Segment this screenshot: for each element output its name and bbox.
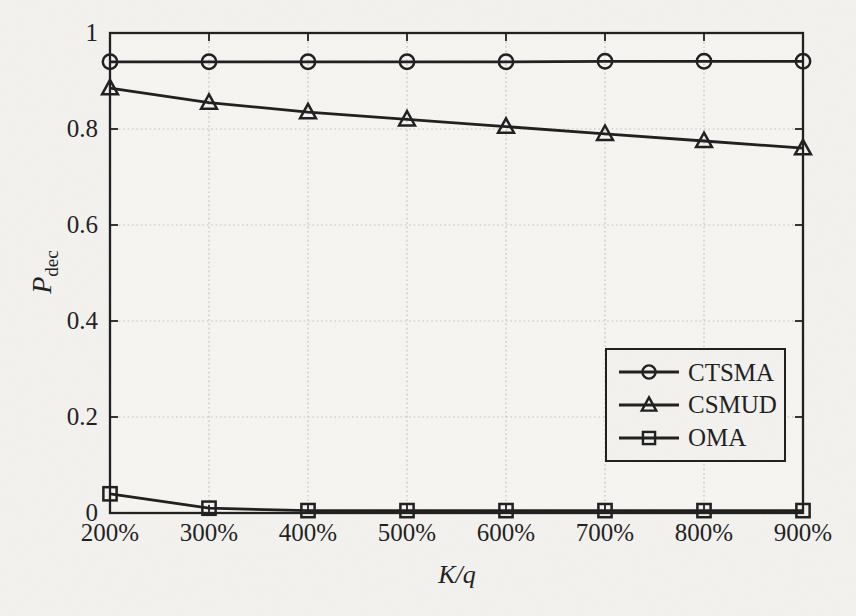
legend-marker-triangle-icon [619, 395, 679, 415]
legend-label-ctsma: CTSMA [688, 360, 774, 385]
legend-marker-square-icon [619, 428, 679, 448]
x-tick-label-300%: 300% [159, 518, 259, 548]
x-tick-label-700%: 700% [555, 518, 655, 548]
legend-marker-circle-icon [619, 362, 679, 382]
y-axis-label-subscript: dec [41, 250, 62, 276]
legend-label-csmud: CSMUD [688, 392, 777, 417]
legend-item-csmud: CSMUD [619, 392, 776, 417]
y-tick-label-0.2: 0.2 [26, 402, 98, 432]
scanned-chart-page: 00.20.40.60.81 200%300%400%500%600%700%8… [0, 0, 856, 616]
legend-item-oma: OMA [619, 425, 776, 450]
legend-item-ctsma: CTSMA [619, 360, 776, 385]
legend-label-oma: OMA [688, 425, 746, 450]
legend: CTSMACSMUDOMA [605, 348, 786, 462]
x-tick-label-800%: 800% [654, 518, 754, 548]
x-tick-label-400%: 400% [258, 518, 358, 548]
x-tick-label-200%: 200% [60, 518, 160, 548]
y-tick-label-1: 1 [26, 18, 98, 48]
x-tick-label-600%: 600% [456, 518, 556, 548]
x-axis-label: K/q [396, 560, 518, 592]
y-axis-label-symbol: P [26, 277, 57, 294]
x-tick-label-900%: 900% [753, 518, 853, 548]
y-axis-label: Pdec [26, 210, 66, 334]
y-tick-label-0.8: 0.8 [26, 114, 98, 144]
x-tick-label-500%: 500% [357, 518, 457, 548]
